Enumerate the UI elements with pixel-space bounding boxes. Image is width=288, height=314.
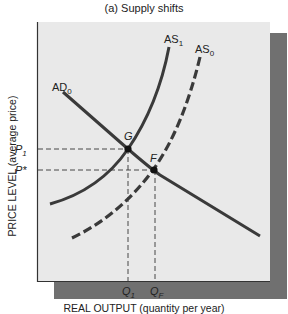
point-f [150, 166, 157, 173]
point-g [124, 145, 131, 152]
y-axis-label: PRICE LEVEL (average price) [6, 66, 18, 266]
label-g: G [124, 130, 133, 142]
x-axis-label: REAL OUTPUT (quantity per year) [0, 302, 288, 314]
